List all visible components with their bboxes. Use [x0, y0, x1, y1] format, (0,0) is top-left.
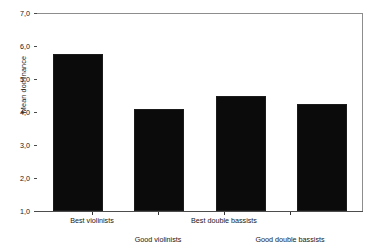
y-tick-label: 3,0	[10, 142, 30, 149]
x-tick-mark	[92, 212, 93, 215]
bar-chart: Mean dominance 7,0 6,0 5,0 4,0 3,0 2,0 1…	[0, 0, 378, 249]
x-axis-category-label: Best violinists	[70, 217, 114, 224]
bar	[297, 104, 347, 211]
x-axis-line	[37, 211, 363, 212]
x-axis-category-label: Best double bassists	[191, 217, 257, 224]
bar	[53, 54, 103, 211]
bar	[134, 109, 184, 211]
x-axis-category-label: Good violinists	[135, 236, 182, 243]
y-tick-label: 6,0	[10, 43, 30, 50]
y-tick-label: 1,0	[10, 208, 30, 215]
y-tick-label: 2,0	[10, 175, 30, 182]
y-tick-label: 7,0	[10, 10, 30, 17]
bars-layer	[37, 13, 363, 211]
x-tick-mark	[224, 212, 225, 215]
x-tick-mark	[158, 212, 159, 215]
x-tick-mark	[290, 212, 291, 215]
y-tick-label: 5,0	[10, 76, 30, 83]
y-axis-tick-labels: 7,0 6,0 5,0 4,0 3,0 2,0 1,0	[8, 0, 30, 249]
x-axis-category-label: Good double bassists	[255, 236, 324, 243]
bar	[216, 96, 266, 212]
y-tick-label: 4,0	[10, 109, 30, 116]
